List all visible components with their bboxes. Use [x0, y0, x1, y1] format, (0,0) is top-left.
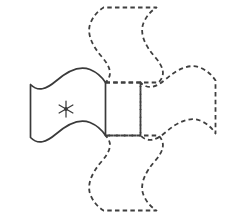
figure-canvas [0, 0, 235, 224]
flag-tiling-diagram [0, 0, 235, 224]
diagram-background [0, 0, 235, 224]
